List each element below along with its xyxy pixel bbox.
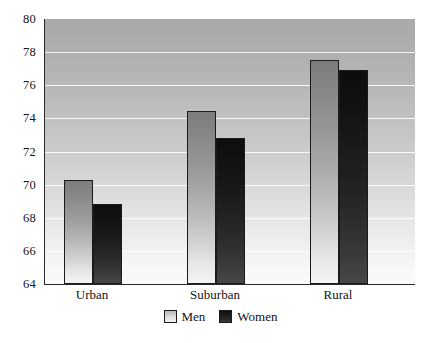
y-axis-tick-label: 72 — [23, 145, 36, 158]
x-axis-tick-label-rural: Rural — [324, 288, 353, 301]
legend-item-men: Men — [164, 310, 206, 323]
y-axis-tick-label: 66 — [23, 245, 36, 258]
bar-rural-men — [310, 60, 339, 284]
bar-suburban-men — [187, 111, 216, 284]
y-axis-tick-label: 68 — [23, 212, 36, 225]
x-axis-tick-label-suburban: Suburban — [190, 288, 240, 301]
bar-suburban-women — [216, 138, 245, 284]
y-axis-tick-label: 76 — [23, 79, 36, 92]
y-axis-tick-label: 64 — [23, 278, 36, 291]
y-axis-tick-label: 78 — [23, 46, 36, 59]
y-axis-tick-label: 70 — [23, 178, 36, 191]
bar-chart: 80 78 76 74 72 70 68 66 64 Urban — [0, 0, 441, 343]
legend-label-women: Women — [237, 310, 277, 323]
x-axis: Urban Suburban Rural — [44, 288, 414, 310]
plot-area — [44, 19, 415, 285]
legend: Men Women — [0, 310, 441, 323]
bar-urban-men — [64, 180, 93, 284]
bar-urban-women — [93, 204, 122, 284]
x-axis-tick-label-urban: Urban — [76, 288, 109, 301]
bar-rural-women — [339, 70, 368, 284]
legend-item-women: Women — [219, 310, 277, 323]
legend-label-men: Men — [182, 310, 206, 323]
bars-layer — [45, 19, 415, 284]
y-axis-tick-label: 74 — [23, 112, 36, 125]
legend-swatch-women-icon — [219, 310, 232, 323]
legend-swatch-men-icon — [164, 310, 177, 323]
y-axis-tick-label: 80 — [23, 13, 36, 26]
y-axis: 80 78 76 74 72 70 68 66 64 — [0, 19, 40, 284]
